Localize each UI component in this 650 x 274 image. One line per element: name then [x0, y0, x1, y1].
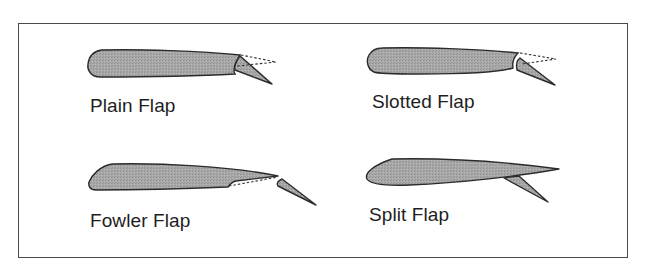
- split-flap-deflected-flap: [504, 176, 548, 202]
- slotted-flap-label: Slotted Flap: [372, 92, 475, 111]
- plain-flap-main-body: [88, 50, 240, 77]
- plain-flap-label: Plain Flap: [90, 96, 176, 115]
- slotted-flap-main-body: [367, 48, 518, 74]
- flap-diagram-canvas: [0, 0, 650, 274]
- slotted-flap-wing: [367, 48, 556, 85]
- split-flap-wing: [366, 159, 559, 202]
- split-flap-label: Split Flap: [369, 205, 449, 224]
- fowler-flap-extended-flap: [277, 179, 316, 205]
- split-flap-main-body: [366, 159, 559, 185]
- fowler-flap-main-body: [89, 164, 278, 190]
- fowler-flap-label: Fowler Flap: [90, 211, 190, 230]
- slotted-flap-deflected-flap: [517, 58, 555, 85]
- plain-flap-wing: [88, 50, 276, 84]
- plain-flap-deflected-flap: [235, 56, 272, 84]
- fowler-flap-wing: [89, 164, 316, 205]
